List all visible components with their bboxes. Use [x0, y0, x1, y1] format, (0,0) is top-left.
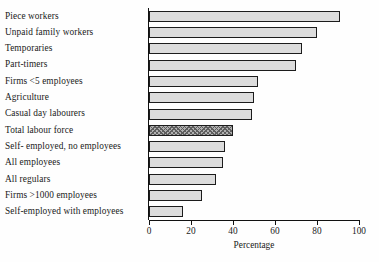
- bar-row: [149, 73, 359, 89]
- bar-row: [149, 204, 359, 220]
- bar: [149, 206, 183, 217]
- bar-row: [149, 90, 359, 106]
- bar: [149, 125, 233, 136]
- category-label: Unpaid family workers: [0, 24, 142, 40]
- category-label: All regulars: [0, 171, 142, 187]
- x-tick: [191, 220, 192, 225]
- x-axis-title: Percentage: [149, 240, 359, 250]
- bar-row: [149, 57, 359, 73]
- bar: [149, 27, 317, 38]
- category-label: Self- employed, no employees: [0, 139, 142, 155]
- x-tick-label: 20: [186, 226, 195, 236]
- bar-chart: Piece workers Unpaid family workers Temp…: [0, 0, 379, 262]
- x-tick-label: 100: [352, 226, 366, 236]
- x-tick-label: 0: [147, 226, 152, 236]
- bar-row: [149, 155, 359, 171]
- category-label: Total labour force: [0, 122, 142, 138]
- bar-row: [149, 187, 359, 203]
- category-label: Piece workers: [0, 8, 142, 24]
- category-label: All employees: [0, 155, 142, 171]
- bar-row: [149, 171, 359, 187]
- bar: [149, 11, 340, 22]
- bar: [149, 157, 223, 168]
- bar: [149, 60, 296, 71]
- bar: [149, 43, 302, 54]
- bar-row: [149, 8, 359, 24]
- bar: [149, 76, 258, 87]
- bar-row: [149, 122, 359, 138]
- bar-row: [149, 139, 359, 155]
- bar: [149, 190, 202, 201]
- bar: [149, 174, 216, 185]
- category-label: Part-timers: [0, 57, 142, 73]
- category-label: Self-employed with employees: [0, 204, 142, 220]
- category-label: Firms >1000 employees: [0, 187, 142, 203]
- x-tick: [233, 220, 234, 225]
- category-label-column: Piece workers Unpaid family workers Temp…: [0, 8, 142, 220]
- x-tick-label: 40: [228, 226, 237, 236]
- bar: [149, 109, 252, 120]
- category-label: Firms <5 employees: [0, 73, 142, 89]
- x-tick: [317, 220, 318, 225]
- x-axis: 020406080100: [149, 220, 359, 221]
- x-tick-label: 80: [312, 226, 321, 236]
- bar-row: [149, 41, 359, 57]
- x-tick: [359, 220, 360, 225]
- bar-row: [149, 106, 359, 122]
- category-label: Agriculture: [0, 90, 142, 106]
- bar: [149, 92, 254, 103]
- bar-row: [149, 24, 359, 40]
- bar: [149, 141, 225, 152]
- bar-rows: [149, 8, 359, 220]
- x-tick-label: 60: [270, 226, 279, 236]
- x-tick: [275, 220, 276, 225]
- category-label: Temporaries: [0, 41, 142, 57]
- plot-area: [149, 8, 359, 220]
- x-tick: [149, 220, 150, 225]
- category-label: Casual day labourers: [0, 106, 142, 122]
